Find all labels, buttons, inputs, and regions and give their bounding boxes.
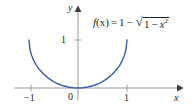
y-axis-label: y <box>68 3 72 13</box>
equation-variable-paren: (x) <box>96 16 109 28</box>
figure-container: y x −1 1 0 1 f(x) = 1 − √ 1−x2 <box>0 0 195 110</box>
radical-sign-icon: √ <box>136 16 143 30</box>
x-tick-label-neg1: −1 <box>24 93 35 103</box>
equation-equals: = <box>111 16 117 28</box>
y-axis-arrow-icon <box>75 6 82 13</box>
radicand-exponent: 2 <box>165 17 169 25</box>
origin-label: 0 <box>68 92 73 102</box>
equation-minus: − <box>127 16 133 28</box>
y-tick-label-1: 1 <box>61 35 66 45</box>
radicand-minus: − <box>151 18 157 30</box>
x-tick-label-pos1: 1 <box>124 93 129 103</box>
x-axis-arrow-icon <box>177 85 184 92</box>
equation-one: 1 <box>119 16 125 28</box>
radicand: 1−x2 <box>143 17 169 30</box>
equation-annotation: f(x) = 1 − √ 1−x2 <box>93 16 169 30</box>
x-axis-label: x <box>174 93 178 103</box>
equation-radical: √ 1−x2 <box>136 16 169 30</box>
radicand-one: 1 <box>144 18 150 30</box>
